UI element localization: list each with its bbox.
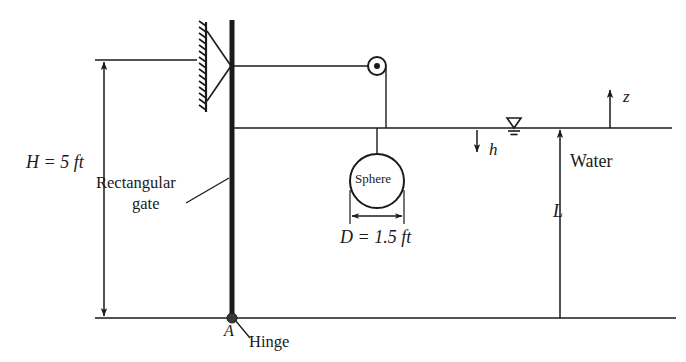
hinge-callout-label: Hinge [249, 334, 289, 351]
fluid-label: Water [570, 152, 613, 170]
technical-diagram-figure: H = 5 ft Rectangular gate Sphere D = 1.5… [0, 0, 686, 362]
hinge-leader-line [235, 320, 250, 338]
cable [233, 66, 386, 155]
diameter-dimension-label: D = 1.5 ft [340, 228, 411, 246]
hinge-point-label: A [224, 323, 234, 339]
z-axis-label: z [623, 88, 630, 105]
depth-symbol-label: h [489, 141, 498, 158]
height-dimension-label: H = 5 ft [26, 153, 84, 171]
gate-leader-line [186, 178, 229, 203]
length-symbol-label: L [553, 202, 563, 220]
gate-label-line2: gate [132, 196, 159, 213]
support-bracket [207, 31, 231, 101]
water-level-symbol-icon [507, 118, 521, 135]
wall-support-hatching [199, 21, 206, 112]
gate-label-line1: Rectangular [96, 175, 176, 192]
sphere-label: Sphere [355, 172, 391, 185]
pulley-icon [368, 57, 386, 75]
